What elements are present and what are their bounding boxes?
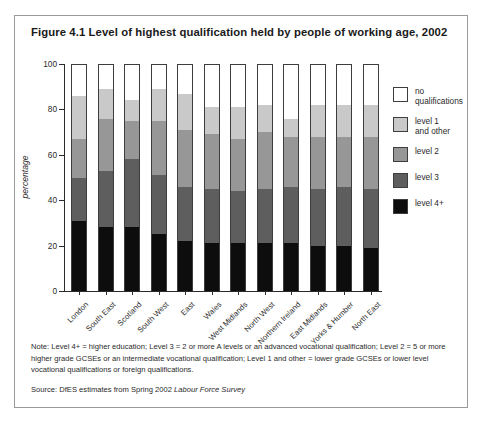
bar-stack xyxy=(71,64,87,291)
bar-segment xyxy=(310,137,326,189)
x-axis-label: Wales xyxy=(202,300,223,321)
bar-segment xyxy=(230,243,246,291)
bar-segment xyxy=(230,191,246,243)
bar-segment xyxy=(336,105,352,137)
legend-swatch xyxy=(393,147,408,162)
legend-item: level 3 xyxy=(393,172,473,188)
bar-segment xyxy=(71,178,87,221)
bar-segment xyxy=(257,132,273,189)
bar-segment xyxy=(177,94,193,130)
source-prefix: Source: DfES estimates from Spring 2002 xyxy=(31,385,174,394)
legend-item: level 1 and other xyxy=(393,116,473,136)
legend-label: level 3 xyxy=(415,172,439,182)
bar-segment xyxy=(257,189,273,243)
y-tick-label: 100 xyxy=(43,59,57,69)
bar-segment xyxy=(230,64,246,107)
bar-segment xyxy=(363,105,379,137)
x-tick-mark xyxy=(132,291,133,295)
bar-stack xyxy=(283,64,299,291)
bar-stack xyxy=(257,64,273,291)
legend-label: no qualifications xyxy=(415,86,463,106)
bar-segment xyxy=(336,64,352,105)
y-tick-label: 0 xyxy=(52,286,57,296)
y-tick-label: 60 xyxy=(48,150,57,160)
figure-frame: Figure 4.1 Level of highest qualificatio… xyxy=(14,15,468,408)
bar-stack xyxy=(151,64,167,291)
x-tick-mark xyxy=(318,291,319,295)
figure-note: Note: Level 4+ = higher education; Level… xyxy=(31,341,455,376)
x-tick-mark xyxy=(185,291,186,295)
chart-plot-area: percentage 020406080100 LondonSouth East… xyxy=(64,64,382,291)
bar-segment xyxy=(363,189,379,248)
legend-swatch xyxy=(393,87,408,102)
bar-stack xyxy=(310,64,326,291)
legend-swatch xyxy=(393,173,408,188)
bar-segment xyxy=(151,89,167,121)
bar-segment xyxy=(310,64,326,105)
bar-segment xyxy=(283,64,299,118)
bar-segment xyxy=(124,64,140,100)
legend-swatch xyxy=(393,199,408,214)
legend-label: level 4+ xyxy=(415,198,444,208)
bar-segment xyxy=(98,64,114,89)
figure-title: Figure 4.1 Level of highest qualificatio… xyxy=(31,26,455,38)
bar-segment xyxy=(71,64,87,96)
bar-segment xyxy=(363,64,379,105)
legend-item: level 2 xyxy=(393,146,473,162)
bar-segment xyxy=(177,187,193,241)
bar-segment xyxy=(310,105,326,137)
bar-segment xyxy=(204,243,220,291)
bar-segment xyxy=(98,171,114,228)
chart-legend: no qualificationslevel 1 and otherlevel … xyxy=(393,86,473,224)
bar-segment xyxy=(71,139,87,178)
bar-segment xyxy=(363,137,379,189)
bar-segment xyxy=(204,134,220,188)
x-tick-mark xyxy=(344,291,345,295)
x-tick-mark xyxy=(159,291,160,295)
bar-stack xyxy=(177,64,193,291)
bar-segment xyxy=(283,187,299,244)
bar-segment xyxy=(310,189,326,246)
legend-label: level 2 xyxy=(415,146,439,156)
x-axis-label: London xyxy=(66,300,91,325)
bar-segment xyxy=(124,121,140,160)
y-tick-label: 20 xyxy=(48,241,57,251)
bar-segment xyxy=(336,187,352,246)
bar-segment xyxy=(230,107,246,139)
source-survey-name: Labour Force Survey xyxy=(174,385,245,394)
bar-segment xyxy=(363,248,379,291)
bar-segment xyxy=(71,221,87,291)
y-axis-title: percentage xyxy=(20,155,30,198)
bar-segment xyxy=(151,175,167,234)
x-axis-line xyxy=(64,291,382,292)
y-tick-label: 80 xyxy=(48,104,57,114)
bar-segment xyxy=(98,119,114,171)
y-tick-mark xyxy=(59,291,64,292)
bar-segment xyxy=(151,121,167,175)
bar-stack xyxy=(124,64,140,291)
figure-source: Source: DfES estimates from Spring 2002 … xyxy=(31,385,455,394)
bar-segment xyxy=(98,227,114,291)
bar-segment xyxy=(257,64,273,105)
bar-segment xyxy=(257,243,273,291)
x-tick-mark xyxy=(106,291,107,295)
bar-stack xyxy=(336,64,352,291)
x-tick-mark xyxy=(371,291,372,295)
bar-segment xyxy=(177,64,193,94)
x-axis-label: East xyxy=(179,300,196,317)
bar-segment xyxy=(230,139,246,191)
bar-segment xyxy=(177,130,193,187)
bar-segment xyxy=(336,246,352,291)
x-tick-mark xyxy=(79,291,80,295)
bar-segment xyxy=(310,246,326,291)
legend-item: no qualifications xyxy=(393,86,473,106)
bar-segment xyxy=(204,107,220,134)
bar-segment xyxy=(71,96,87,139)
bar-segment xyxy=(283,137,299,187)
bar-segment xyxy=(124,159,140,227)
legend-item: level 4+ xyxy=(393,198,473,214)
bar-segment xyxy=(204,64,220,107)
y-tick-label: 40 xyxy=(48,195,57,205)
bar-segment xyxy=(151,64,167,89)
bar-segment xyxy=(124,227,140,291)
